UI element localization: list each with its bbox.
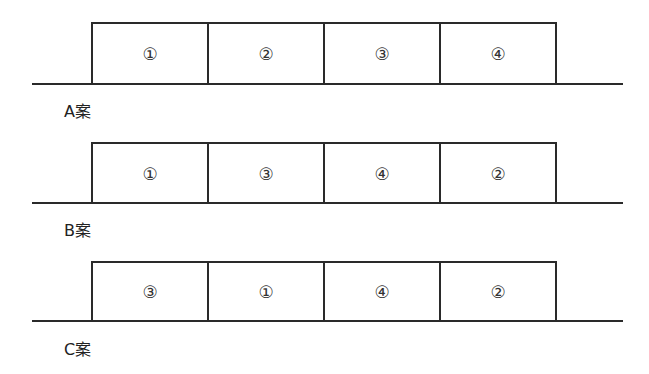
segment: ③ <box>207 144 323 203</box>
segment: ④ <box>323 263 439 321</box>
segment: ③ <box>93 263 207 321</box>
segment: ① <box>93 144 207 203</box>
plan-c: ③ ① ④ ② C案 <box>0 0 649 120</box>
segment: ② <box>439 263 555 321</box>
segment-row: ③ ① ④ ② <box>91 261 557 321</box>
ground-line <box>32 202 623 204</box>
segment-row: ① ③ ④ ② <box>91 142 557 203</box>
plan-label: C案 <box>64 336 91 360</box>
segment: ④ <box>323 144 439 203</box>
segment: ① <box>207 263 323 321</box>
ground-line <box>32 320 623 322</box>
segment: ② <box>439 144 555 203</box>
plan-label: B案 <box>64 217 91 241</box>
